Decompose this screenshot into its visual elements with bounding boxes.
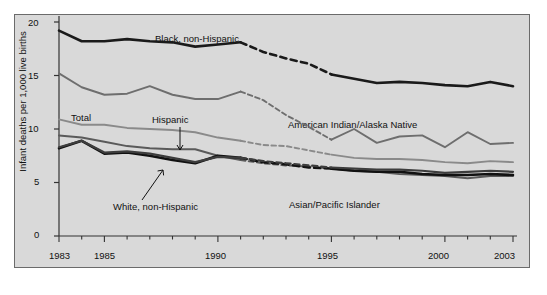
series-line-asian-pacific-islander: [59, 141, 241, 162]
series-line-black-non-hispanic: [59, 31, 241, 47]
series-line-dashed-american-indian-alaska-native: [241, 92, 332, 140]
series-layer: [59, 31, 513, 179]
series-line-dashed-black-non-hispanic: [241, 42, 332, 74]
leader-line-white-non-hispanic: [142, 170, 164, 200]
series-line-american-indian-alaska-native: [331, 129, 513, 147]
chart-plot-area: [0, 0, 547, 295]
leader-lines: [142, 127, 183, 200]
series-line-american-indian-alaska-native: [59, 73, 241, 99]
chart-figure: Infant deaths per 1,000 live births 20 1…: [0, 0, 547, 295]
series-line-dashed-total: [241, 141, 332, 155]
axes-layer: [54, 16, 517, 242]
series-line-black-non-hispanic: [331, 74, 513, 86]
series-line-total: [331, 155, 513, 164]
